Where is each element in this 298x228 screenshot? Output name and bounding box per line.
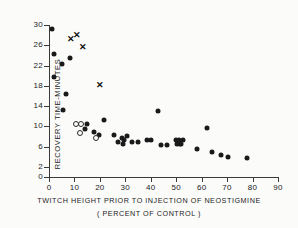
y-tick-label: 26 [34, 41, 44, 49]
data-point-open [78, 121, 84, 127]
data-point-filled [148, 138, 153, 143]
x-tick [227, 177, 228, 182]
x-tick-label: 40 [146, 184, 156, 192]
scatter-plot-figure: RECOVERY TIME-MINUTES 026101418222630 01… [0, 0, 298, 228]
y-tick-label: 30 [34, 21, 44, 29]
x-tick-label: 70 [222, 184, 232, 192]
y-tick-label: 22 [34, 62, 44, 70]
data-point-filled [120, 141, 125, 146]
data-point-filled [63, 92, 68, 97]
data-point-cross: ✕ [79, 43, 87, 51]
data-point-filled [194, 147, 199, 152]
data-point-cross: ✕ [96, 81, 104, 89]
x-axis-title: TWITCH HEIGHT PRIOR TO INJECTION OF NEOS… [0, 196, 298, 205]
data-point-filled [156, 108, 161, 113]
data-point-filled [136, 140, 141, 145]
data-point-filled [204, 126, 209, 131]
data-point-open [77, 130, 83, 136]
x-tick-label: 10 [70, 184, 80, 192]
data-point-filled [124, 134, 129, 139]
data-point-filled [165, 143, 170, 148]
data-point-filled [67, 55, 72, 60]
data-point-filled [209, 150, 214, 155]
x-axis-subtitle: ( PERCENT OF CONTROL ) [0, 209, 298, 218]
data-point-filled [52, 74, 57, 79]
x-tick [74, 177, 75, 182]
x-tick [202, 177, 203, 182]
data-point-filled [60, 108, 65, 113]
data-point-open [93, 135, 99, 141]
x-tick-label: 90 [273, 184, 283, 192]
x-tick [125, 177, 126, 182]
x-tick [176, 177, 177, 182]
data-point-filled [82, 127, 87, 132]
data-point-cross: ✕ [73, 31, 81, 39]
data-point-filled [179, 142, 184, 147]
x-tick-label: 0 [47, 184, 52, 192]
x-tick [100, 177, 101, 182]
data-point-filled [101, 117, 106, 122]
plot-area: ✕✕✕✕ [49, 25, 278, 177]
x-tick-label: 50 [171, 184, 181, 192]
data-point-filled [245, 155, 250, 160]
x-tick [278, 177, 279, 182]
data-point-filled [50, 27, 55, 32]
data-point-filled [51, 52, 56, 57]
x-axis-line: 0102030405060708090 [49, 177, 278, 178]
x-tick [253, 177, 254, 182]
data-point-filled [111, 132, 116, 137]
x-tick [49, 177, 50, 182]
data-point-filled [218, 153, 223, 158]
x-tick-label: 30 [121, 184, 131, 192]
y-tick-label: 0 [38, 173, 43, 181]
y-tick-label: 2 [38, 163, 43, 171]
x-tick-label: 60 [197, 184, 207, 192]
x-tick [151, 177, 152, 182]
data-point-filled [129, 140, 134, 145]
data-point-filled [226, 155, 231, 160]
data-point-filled [59, 62, 64, 67]
y-tick-label: 18 [34, 82, 44, 90]
x-tick-label: 80 [248, 184, 258, 192]
y-tick-label: 14 [34, 102, 44, 110]
y-tick-label: 6 [38, 143, 43, 151]
data-point-filled [158, 142, 163, 147]
x-tick-label: 20 [95, 184, 105, 192]
y-tick-label: 10 [34, 122, 44, 130]
